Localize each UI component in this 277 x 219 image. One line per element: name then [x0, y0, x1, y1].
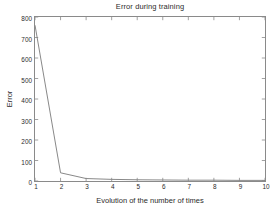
x-tick-label: 4 [111, 183, 115, 190]
x-tick-label: 3 [85, 183, 89, 190]
y-tick-label: 200 [21, 138, 32, 145]
plot-canvas [35, 17, 265, 181]
y-tick-label: 800 [21, 15, 32, 22]
y-axis-label: Error [5, 91, 14, 108]
x-tick-label: 7 [188, 183, 192, 190]
x-tick-label: 9 [239, 183, 243, 190]
x-axis-label: Evolution of the number of times [34, 196, 266, 205]
data-series-line [35, 25, 265, 180]
y-tick-label: 300 [21, 117, 32, 124]
y-tick-label: 0 [28, 179, 32, 186]
y-tick-label: 500 [21, 76, 32, 83]
x-tick-label: 10 [262, 183, 269, 190]
x-tick-label: 8 [213, 183, 217, 190]
x-tick-label: 5 [136, 183, 140, 190]
x-tick-label: 6 [162, 183, 166, 190]
y-tick-label: 100 [21, 158, 32, 165]
y-tick-label: 600 [21, 56, 32, 63]
y-tick-label: 400 [21, 97, 32, 104]
chart-figure: Error during training 010020030040050060… [0, 0, 277, 219]
plot-area: 010020030040050060070080012345678910 [34, 16, 266, 182]
chart-title: Error during training [34, 2, 266, 11]
y-tick-label: 700 [21, 35, 32, 42]
x-tick-label: 2 [60, 183, 64, 190]
x-tick-label: 1 [34, 183, 38, 190]
